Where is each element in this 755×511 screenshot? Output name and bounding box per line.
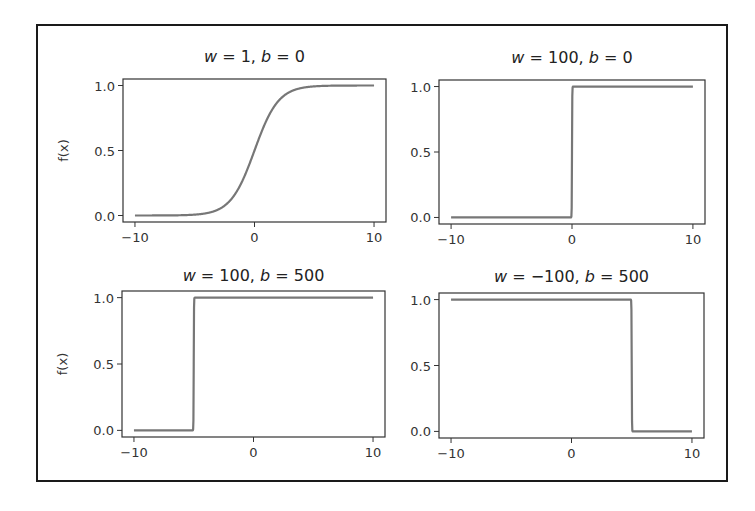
x-tick-label: 0	[249, 445, 257, 460]
y-axis-label: f(x)	[55, 353, 70, 375]
x-tick-label: −10	[121, 230, 148, 245]
axes-box	[122, 291, 385, 437]
y-tick-label: 0.0	[410, 210, 431, 225]
x-tick-label: 10	[365, 445, 382, 460]
x-tick-label: 10	[685, 232, 702, 247]
subplot-2: −100100.00.51.0w = 100, b = 0	[410, 48, 705, 247]
subplot-1: −100100.00.51.0w = 1, b = 0f(x)	[56, 47, 386, 245]
y-tick-label: 0.0	[93, 423, 114, 438]
y-axis-label: f(x)	[56, 139, 71, 161]
x-tick-label: 10	[366, 230, 383, 245]
y-tick-label: 0.0	[94, 209, 115, 224]
y-tick-label: 1.0	[410, 293, 431, 308]
y-tick-label: 0.0	[410, 424, 431, 439]
x-tick-label: −10	[437, 232, 464, 247]
subplot-title: w = 100, b = 500	[183, 266, 325, 285]
y-tick-label: 0.5	[93, 357, 114, 372]
subplot-4: −100100.00.51.0w = −100, b = 500	[410, 267, 704, 461]
y-tick-label: 1.0	[410, 80, 431, 95]
x-tick-label: 10	[684, 446, 701, 461]
x-tick-label: 0	[567, 446, 575, 461]
y-tick-label: 0.5	[94, 144, 115, 159]
y-tick-label: 0.5	[410, 145, 431, 160]
subplot-title: w = 100, b = 0	[511, 48, 632, 67]
x-tick-label: −10	[120, 445, 147, 460]
subplot-title: w = 1, b = 0	[204, 47, 305, 66]
axes-box	[439, 293, 704, 438]
y-tick-label: 1.0	[93, 291, 114, 306]
y-tick-label: 0.5	[410, 359, 431, 374]
x-tick-label: 0	[250, 230, 258, 245]
y-tick-label: 1.0	[94, 79, 115, 94]
x-tick-label: −10	[437, 446, 464, 461]
subplot-title: w = −100, b = 500	[494, 267, 649, 286]
subplot-3: −100100.00.51.0w = 100, b = 500f(x)	[55, 266, 385, 460]
figure: −100100.00.51.0w = 1, b = 0f(x)−100100.0…	[0, 0, 755, 511]
x-tick-label: 0	[568, 232, 576, 247]
